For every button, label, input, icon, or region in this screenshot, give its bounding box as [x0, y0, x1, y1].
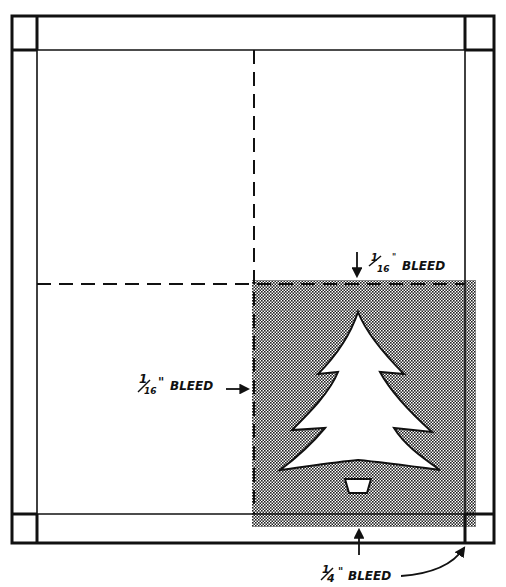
- bleed-diagram: 1 16 " BLEED 1 16 " BLEED 1 4 " BLEED: [0, 0, 506, 587]
- svg-text:16: 16: [144, 386, 157, 396]
- curved-arrow-icon: [401, 548, 464, 576]
- svg-text:BLEED: BLEED: [170, 379, 213, 393]
- svg-text:BLEED: BLEED: [348, 569, 391, 583]
- svg-text:4: 4: [326, 572, 335, 585]
- bottom-bleed-label: 1 4 " BLEED: [321, 563, 391, 585]
- tree-pot-icon: [345, 479, 371, 493]
- svg-text:": ": [392, 253, 396, 262]
- svg-text:": ": [158, 375, 164, 389]
- left-bleed-label: 1 16 " BLEED: [138, 372, 213, 396]
- svg-text:BLEED: BLEED: [402, 259, 445, 273]
- svg-text:": ": [338, 566, 343, 577]
- svg-text:16: 16: [377, 264, 390, 274]
- top-bleed-label: 1 16 " BLEED: [369, 252, 445, 274]
